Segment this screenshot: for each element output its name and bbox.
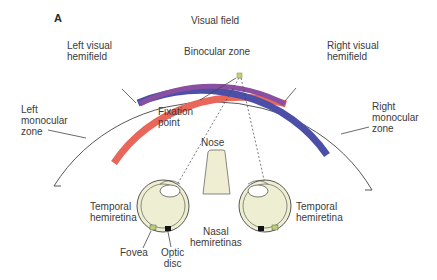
binocular-zone-label: Binocular zone xyxy=(184,46,250,57)
right-eye xyxy=(239,180,291,232)
right-monocular-zone-label: Right monocular zone xyxy=(372,101,419,134)
right-monocular-leader xyxy=(341,127,369,134)
temporal-hemiretina-right-label: Temporal hemiretina xyxy=(296,201,343,223)
left-monocular-zone-label: Left monocular zone xyxy=(21,104,68,137)
right-visual-hemifield-label: Right visual hemifield xyxy=(327,40,379,62)
panel-label: A xyxy=(54,13,62,24)
nasal-hemiretinas-label: Nasal hemiretinas xyxy=(190,226,242,248)
fovea-label: Fovea xyxy=(120,247,148,258)
right-hemifield-tick xyxy=(285,88,296,101)
right-fovea xyxy=(272,225,278,230)
optic-disc-label: Optic disc xyxy=(161,247,184,269)
left-eye xyxy=(137,180,189,232)
nose-shape xyxy=(203,150,230,194)
left-fovea xyxy=(150,225,156,230)
fovea-leader xyxy=(143,231,151,248)
fixation-point-label: Fixation point xyxy=(158,106,193,128)
visual-field-label: Visual field xyxy=(191,15,239,26)
nose-label: Nose xyxy=(201,137,224,148)
right-optic-disc xyxy=(258,226,264,231)
fixation-point-marker xyxy=(237,73,242,78)
left-optic-disc xyxy=(165,226,171,231)
temporal-hemiretina-left-label: Temporal hemiretina xyxy=(90,201,137,223)
left-visual-hemifield-label: Left visual hemifield xyxy=(67,40,112,62)
optic-disc-leader xyxy=(168,232,171,247)
left-hemifield-tick xyxy=(122,89,136,103)
